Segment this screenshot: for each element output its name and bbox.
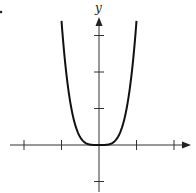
y-axis-arrow-icon [96,17,103,26]
x-axis-arrow-icon [182,142,191,149]
chart: y [0,0,196,193]
y-axis-label: y [94,1,102,15]
corner-dot [0,11,2,14]
